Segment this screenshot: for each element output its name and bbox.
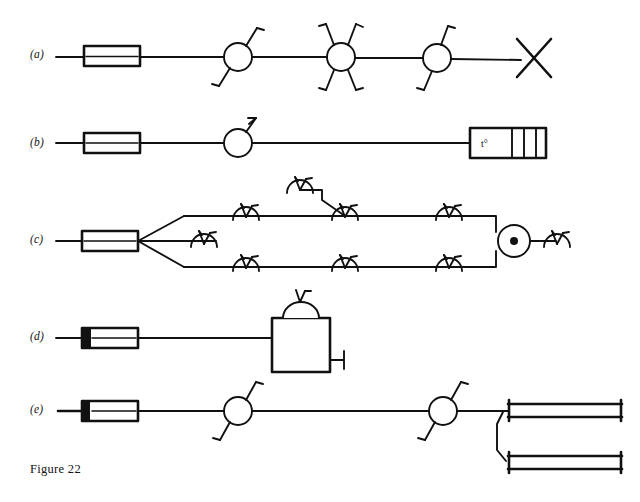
row-a-supply-cylinder [84,46,140,66]
row-c-nozzle-top-2[interactable] [332,204,358,220]
row-a-x-terminator [517,39,551,77]
schematic-canvas: t° [0,0,640,502]
row-c-junction-circle[interactable] [498,225,530,257]
row-c-supply-cylinder [82,231,138,251]
temperature-label: t° [481,138,488,149]
row-e-capped-rail-upper [508,400,622,421]
row-label-e: (e) [30,403,43,415]
row-d-square-tank[interactable] [272,318,330,372]
row-c-nozzle-bottom-1[interactable] [233,255,259,271]
row-label-d: (d) [30,330,44,342]
row-c-nozzle-bottom-3[interactable] [436,255,462,271]
row-e-group [58,382,622,473]
row-d-dome-vent [283,290,319,318]
row-e-supply-cylinder [82,401,138,421]
row-c-nozzle-top-1[interactable] [233,204,259,220]
row-e-drop-pipe [497,412,506,461]
row-c-nozzle-bottom-2[interactable] [332,255,358,271]
row-b-group: t° [56,118,546,158]
row-c-nozzle-middle[interactable] [191,231,217,247]
row-label-a: (a) [30,48,44,60]
row-b-temperature-unit[interactable]: t° [470,128,546,158]
row-label-c: (c) [30,233,43,245]
row-c-nozzle-outlet[interactable] [544,231,570,247]
row-c-branch-fan [138,216,205,267]
row-c-top-main [184,216,496,232]
row-c-group [56,177,570,271]
row-c-nozzle-top-3[interactable] [436,204,462,220]
figure-root: t° [0,0,640,502]
row-a-group [56,24,551,90]
row-d-drain-outlet [330,351,344,369]
row-d-group [56,290,344,372]
row-d-supply-cylinder [82,328,138,348]
figure-caption: Figure 22 [30,462,81,477]
row-b-circle-valve[interactable] [224,118,256,157]
row-a-circle-valve-3[interactable] [417,26,455,90]
row-b-supply-cylinder [84,133,140,153]
row-a-main-line-4 [451,59,521,60]
row-e-capped-rail-lower [508,452,622,473]
row-label-b: (b) [30,136,44,148]
